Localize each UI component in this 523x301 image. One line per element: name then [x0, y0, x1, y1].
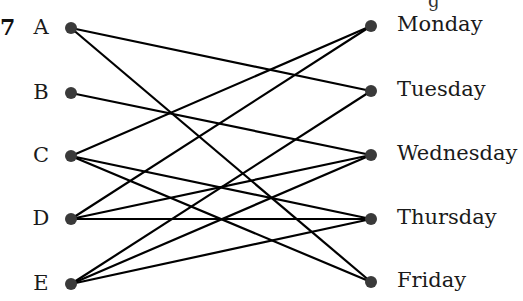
left-label-D: D — [31, 208, 51, 229]
edge-C-Mon — [71, 26, 371, 156]
edge-A-Tue — [71, 28, 371, 91]
node-E — [65, 278, 77, 290]
node-D — [65, 213, 77, 225]
right-label-Thu: Thursday — [397, 207, 497, 228]
edge-D-Mon — [71, 26, 371, 219]
left-label-B: B — [31, 82, 51, 103]
right-label-Fri: Friday — [397, 270, 466, 291]
left-label-E: E — [31, 273, 51, 294]
node-Fri — [365, 276, 377, 288]
right-label-Wed: Wednesday — [397, 143, 517, 164]
node-C — [65, 150, 77, 162]
edge-A-Fri — [71, 28, 371, 282]
node-Thu — [365, 213, 377, 225]
right-label-Mon: Monday — [397, 14, 483, 35]
node-Wed — [365, 149, 377, 161]
edge-E-Thu — [71, 219, 371, 284]
edge-B-Wed — [71, 93, 371, 155]
node-Tue — [365, 85, 377, 97]
right-label-Tue: Tuesday — [397, 79, 486, 100]
node-B — [65, 87, 77, 99]
edges-group — [71, 26, 371, 284]
node-A — [65, 22, 77, 34]
node-Mon — [365, 20, 377, 32]
edge-E-Tue — [71, 91, 371, 284]
left-label-C: C — [31, 145, 51, 166]
left-label-A: A — [31, 17, 51, 38]
